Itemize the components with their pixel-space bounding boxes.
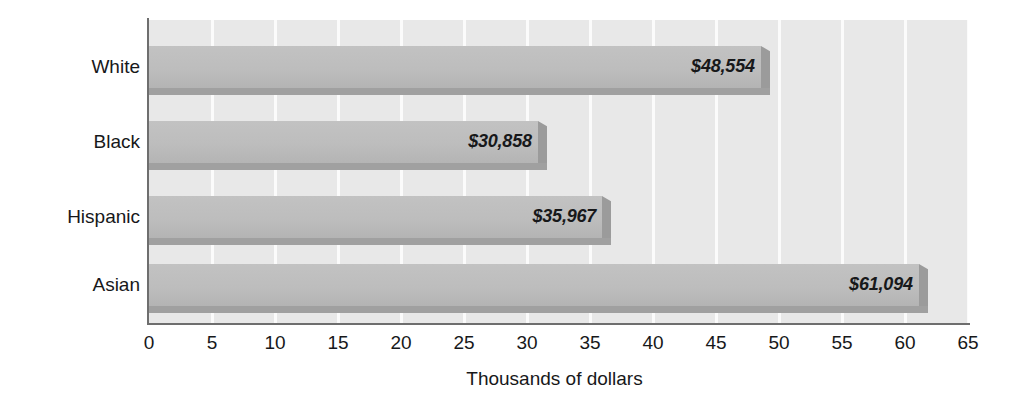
- bar-value-label-hispanic: $35,967: [508, 206, 596, 227]
- x-tick-45: 45: [705, 332, 726, 354]
- bar-bevel: [602, 196, 611, 243]
- x-tick-65: 65: [957, 332, 978, 354]
- x-tick-40: 40: [642, 332, 663, 354]
- x-tick-15: 15: [327, 332, 348, 354]
- category-axis-labels: WhiteBlackHispanicAsian: [0, 0, 140, 410]
- x-tick-50: 50: [768, 332, 789, 354]
- bar-bevel: [538, 121, 547, 168]
- x-tick-5: 5: [207, 332, 218, 354]
- category-label-hispanic: Hispanic: [67, 206, 140, 228]
- chart-page: $48,554$30,858$35,967$61,094 WhiteBlackH…: [0, 0, 1035, 410]
- x-axis-title-text: Thousands of dollars: [466, 368, 642, 390]
- x-tick-25: 25: [453, 332, 474, 354]
- bar-shadow: [149, 88, 770, 95]
- x-tick-0: 0: [144, 332, 155, 354]
- category-label-asian: Asian: [92, 274, 140, 296]
- category-label-black: Black: [94, 131, 140, 153]
- bar-bevel: [919, 264, 928, 311]
- category-label-white: White: [91, 56, 140, 78]
- bar-value-label-white: $48,554: [667, 56, 755, 77]
- bar-value-label-asian: $61,094: [825, 274, 913, 295]
- x-tick-35: 35: [579, 332, 600, 354]
- bar-body: [149, 264, 919, 306]
- bar-asian: [149, 264, 919, 306]
- x-tick-10: 10: [264, 332, 285, 354]
- x-axis-line: [147, 323, 970, 325]
- bar-shadow: [149, 163, 547, 170]
- bar-shadow: [149, 306, 928, 313]
- bar-value-label-black: $30,858: [444, 131, 532, 152]
- x-axis-title: Thousands of dollars: [0, 368, 1035, 390]
- x-tick-20: 20: [390, 332, 411, 354]
- bar-bevel: [761, 46, 770, 93]
- bar-shadow: [149, 238, 611, 245]
- x-tick-30: 30: [516, 332, 537, 354]
- gridline-65: [967, 20, 969, 323]
- x-tick-55: 55: [831, 332, 852, 354]
- x-tick-60: 60: [894, 332, 915, 354]
